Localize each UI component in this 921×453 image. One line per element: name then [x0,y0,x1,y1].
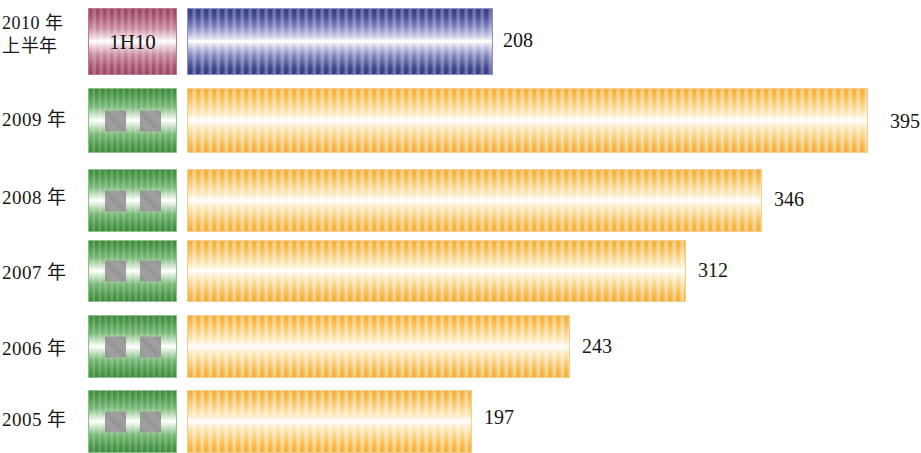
redaction-box-icon [105,110,126,131]
chart-row: 2007 年 312 [0,240,921,315]
row-year-label: 2009 年 [2,108,86,131]
chart-row: 2006 年 243 [0,315,921,390]
row-year-label: 2007 年 [2,261,86,284]
redaction-box-icon [140,110,161,131]
redaction-box-icon [105,336,126,357]
row-year-label: 2006 年 [2,337,86,360]
redacted-value-placeholder [89,190,176,211]
row-year-label: 2010 年 上半年 [2,12,86,58]
redacted-value-placeholder [89,411,176,432]
row-value-label: 346 [774,188,804,211]
row-value-bar [187,390,472,453]
chart-row: 2008 年 346 [0,164,921,240]
row-category-chip: 1H10 [88,8,177,75]
row-value-bar [187,88,868,153]
row-value-label: 243 [582,335,612,358]
row-category-chip [88,240,177,302]
row-value-bar [187,240,686,302]
redaction-box-icon [105,190,126,211]
row-value-label: 197 [484,406,514,429]
redaction-box-icon [105,411,126,432]
row-category-chip [88,169,177,232]
row-value-bar [187,8,493,75]
row-value-label: 312 [698,259,728,282]
row-year-label: 2005 年 [2,408,86,431]
row-category-chip [88,88,177,153]
row-value-bar [187,169,762,232]
chart-row: 2005 年 197 [0,390,921,453]
redacted-value-placeholder [89,261,176,282]
row-value-label: 208 [503,29,533,52]
horizontal-bar-chart: 2010 年 上半年 1H10 208 2009 年 395 2008 年 [0,0,921,453]
redaction-box-icon [140,190,161,211]
redaction-box-icon [140,336,161,357]
row-category-chip [88,390,177,453]
redaction-box-icon [140,411,161,432]
row-value-bar [187,315,570,378]
row-category-chip [88,315,177,378]
redaction-box-icon [105,261,126,282]
row-year-label: 2008 年 [2,186,86,209]
redacted-value-placeholder [89,336,176,357]
chart-row: 2010 年 上半年 1H10 208 [0,0,921,84]
chart-row: 2009 年 395 [0,84,921,164]
redaction-box-icon [140,261,161,282]
redacted-value-placeholder [89,110,176,131]
chip-label: 1H10 [89,29,176,54]
row-value-label: 395 [890,110,920,133]
